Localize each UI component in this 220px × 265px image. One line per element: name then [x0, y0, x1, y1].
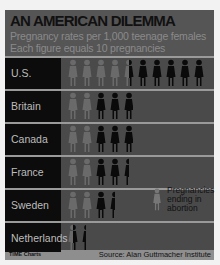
- legend-label: Pregnancies ending in abortion: [167, 186, 213, 213]
- chart-rows: U.S.BritainCanadaFranceSwedenNetherlands: [5, 56, 214, 254]
- pregnancy-figures: [73, 224, 86, 253]
- pregnancy-figures: [94, 125, 133, 154]
- pictograph-bar: [66, 224, 86, 253]
- country-label-cell: Canada: [5, 124, 61, 155]
- abortion-figures: [66, 59, 129, 88]
- pictograph-bar: [66, 92, 133, 121]
- pictograph-bar: [66, 59, 206, 88]
- chart-row: Canada: [5, 122, 214, 155]
- abortion-figures: [66, 125, 94, 154]
- chart-source: Source: Alan Guttmacher Institute: [99, 250, 211, 259]
- country-label-cell: France: [5, 157, 61, 188]
- country-label: U.S.: [11, 67, 31, 79]
- pictograph-bar: [66, 191, 115, 220]
- country-label-cell: Sweden: [5, 190, 61, 221]
- pictograph-chart: AN AMERICAN DILEMMA Pregnancy rates per …: [5, 10, 214, 260]
- country-label: Netherlands: [11, 232, 68, 244]
- chart-unit-note: Each figure equals 10 pregnancies: [10, 42, 165, 54]
- pregnancy-figures: [94, 191, 115, 220]
- country-label: Canada: [11, 133, 48, 145]
- chart-footer: TIME Charts Source: Alan Guttmacher Inst…: [5, 250, 214, 260]
- chart-credit: TIME Charts: [9, 251, 41, 257]
- abortion-figures: [66, 191, 94, 220]
- abortion-figures: [66, 158, 94, 187]
- legend: Pregnancies ending in abortion: [151, 186, 213, 222]
- chart-row: France: [5, 155, 214, 188]
- pictograph-bar: [66, 125, 133, 154]
- country-label: Britain: [11, 100, 41, 112]
- pregnancy-figures: [94, 158, 129, 187]
- chart-title: AN AMERICAN DILEMMA: [10, 12, 175, 29]
- country-label: France: [11, 166, 44, 178]
- country-label-cell: Britain: [5, 91, 61, 122]
- abortion-figures: [66, 224, 73, 253]
- chart-row: U.S.: [5, 56, 214, 89]
- country-label: Sweden: [11, 199, 49, 211]
- chart-subtitle: Pregnancy rates per 1,000 teenage female…: [10, 30, 206, 42]
- pregnancy-figures: [94, 92, 133, 121]
- pictograph-bar: [66, 158, 129, 187]
- pregnancy-figures: [129, 59, 206, 88]
- chart-row: Britain: [5, 89, 214, 122]
- chart-header: AN AMERICAN DILEMMA Pregnancy rates per …: [5, 10, 214, 56]
- abortion-figures: [66, 92, 94, 121]
- faded-female-figure-icon: [151, 188, 163, 212]
- country-label-cell: U.S.: [5, 58, 61, 89]
